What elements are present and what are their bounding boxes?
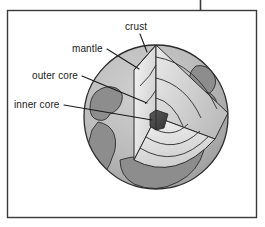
earth-layers-figure: crust mantle outer core inner core <box>0 0 265 227</box>
label-outer-core: outer core <box>32 70 78 81</box>
label-inner-core: inner core <box>14 99 59 110</box>
earth-cutaway-illustration <box>0 0 265 227</box>
label-crust: crust <box>125 21 147 32</box>
label-mantle: mantle <box>72 43 103 54</box>
globe-body <box>84 45 228 189</box>
